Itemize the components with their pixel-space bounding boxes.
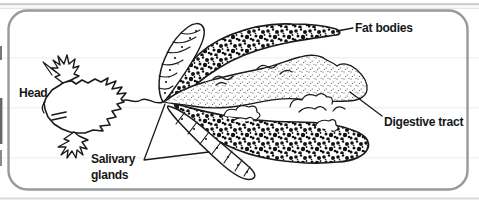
head-drawing xyxy=(42,55,163,158)
head-claw-bottom xyxy=(58,132,88,158)
fat-bodies-leader xyxy=(337,28,353,31)
head-claw-top xyxy=(51,55,79,83)
neck-line xyxy=(122,99,163,103)
fat-bodies-label: Fat bodies xyxy=(355,20,413,36)
head-label: Head xyxy=(19,85,47,101)
digestive-tract-leader xyxy=(350,92,382,116)
figure-panel: Head Fat bodies Digestive tract Salivary… xyxy=(0,0,479,203)
head-outline xyxy=(44,78,126,133)
digestive-tract-label: Digestive tract xyxy=(384,114,463,130)
salivary-glands-label: Salivary glands xyxy=(91,151,145,183)
